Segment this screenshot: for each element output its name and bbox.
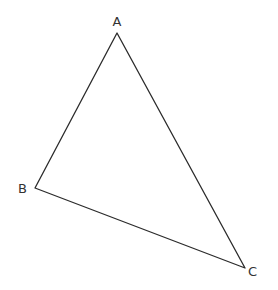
vertex-label-c: C	[248, 264, 257, 279]
triangle-diagram: A B C	[0, 0, 278, 290]
triangle-abc	[35, 33, 245, 268]
vertex-label-a: A	[113, 14, 122, 29]
vertex-label-b: B	[18, 181, 27, 196]
